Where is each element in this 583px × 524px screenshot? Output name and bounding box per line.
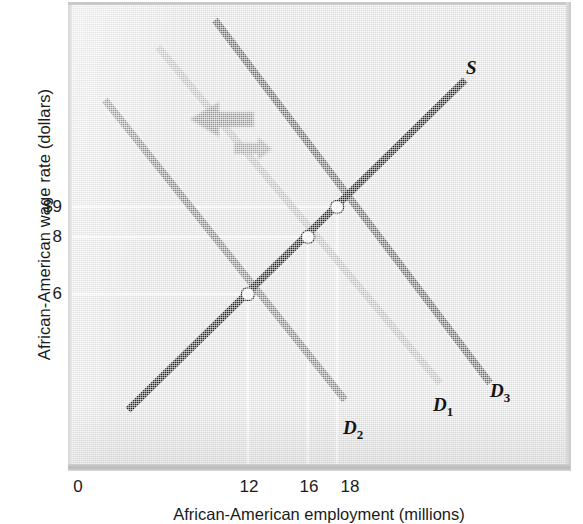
demand-curve-d3 xyxy=(215,20,490,383)
demand-curve-d2-label: D2 xyxy=(343,417,363,443)
x-tick-label-16: 16 xyxy=(300,478,319,495)
demand-curve-d1-label-text: D xyxy=(433,394,447,415)
demand-curve-d2-label-sub: 2 xyxy=(357,427,364,442)
equilibrium-point-12-6 xyxy=(241,287,254,300)
supply-curve-label-text: S xyxy=(466,57,477,78)
demand-curve-d1-label: D1 xyxy=(433,394,453,420)
demand-curve-d3-label: D3 xyxy=(490,380,510,406)
leftward-shift-arrow xyxy=(190,102,254,137)
plot-border-top xyxy=(68,2,570,5)
demand-curve-d1-label-sub: 1 xyxy=(447,404,454,419)
y-tick-label-6: 6 xyxy=(0,285,62,302)
y-tick-label-8: 8 xyxy=(0,228,62,245)
demand-curve-d2-label-text: D xyxy=(343,417,357,438)
x-tick-label-12: 12 xyxy=(240,478,259,495)
y-axis-title: African-American wage rate (dollars) xyxy=(35,5,54,445)
plot-area: S D1 D2 D3 xyxy=(68,2,570,470)
demand-curve-d3-label-text: D xyxy=(490,380,504,401)
plot-border-right xyxy=(566,2,571,471)
equilibrium-point-18-9 xyxy=(330,200,343,213)
equilibrium-point-16-8 xyxy=(301,230,314,243)
plot-border-left xyxy=(68,2,72,471)
demand-curve-d3-label-sub: 3 xyxy=(504,390,511,405)
x-axis-title: African-American employment (millions) xyxy=(68,505,570,524)
x-tick-label-0: 0 xyxy=(73,478,82,495)
plot-border-bottom xyxy=(68,464,570,471)
x-tick-label-18: 18 xyxy=(341,478,360,495)
y-tick-label-9: $9 xyxy=(0,198,62,215)
supply-curve-label: S xyxy=(466,57,477,79)
